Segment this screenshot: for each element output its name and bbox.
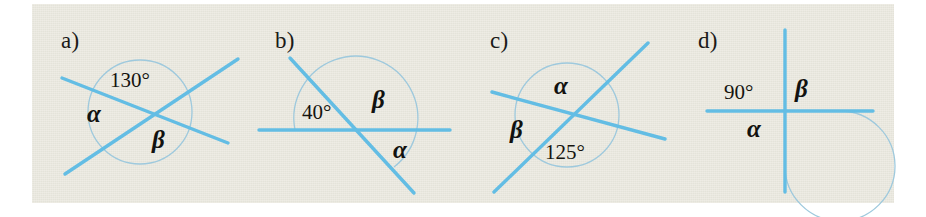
panel-d-label: d)	[698, 28, 718, 54]
panel-d-known-angle: 90°	[724, 80, 753, 105]
panel-b-label: b)	[275, 28, 295, 54]
panel-b-known-angle: 40°	[302, 100, 331, 125]
panel-a-known-angle: 130°	[110, 68, 150, 93]
panel-a-alpha: α	[87, 100, 101, 128]
panel-c: c) α β 125°	[462, 0, 677, 217]
panel-c-label: c)	[490, 28, 508, 54]
panel-b-alpha: α	[393, 136, 407, 164]
panel-d-beta: β	[795, 75, 808, 103]
panel-b: b) 40° β α	[247, 0, 462, 217]
panel-c-alpha: α	[554, 72, 568, 100]
panel-a-beta: β	[152, 126, 165, 154]
panel-d-alpha: α	[747, 115, 761, 143]
panel-a: a) 130° α β	[32, 0, 247, 217]
panel-c-known-angle: 125°	[545, 140, 585, 165]
panel-c-beta: β	[510, 116, 523, 144]
panel-b-transversal-line	[290, 58, 414, 193]
panel-d: d) 90° β α	[677, 0, 894, 217]
panel-b-beta: β	[372, 86, 385, 114]
panel-d-angle-arc	[785, 111, 895, 217]
geometry-figure: a) 130° α β b) 40° β α c) α β 125°	[0, 0, 926, 217]
panel-a-label: a)	[61, 28, 79, 54]
